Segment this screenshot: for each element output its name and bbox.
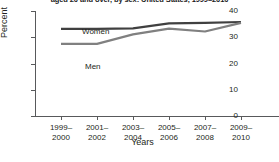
- chart-figure: aged 20 and over, by sex: United States,…: [0, 0, 279, 162]
- x-tick-label-line: 2009–: [219, 123, 263, 133]
- x-tick-label: 2009–2010: [219, 123, 263, 143]
- plot-area: 010203040 1999–20002001–20022003–2004200…: [35, 11, 279, 116]
- series-label-men: Men: [85, 63, 101, 71]
- x-tick-label-line: 2010: [219, 133, 263, 143]
- y-axis-title: Percent: [0, 7, 9, 38]
- series-lines: [35, 11, 279, 117]
- series-label-women: Women: [82, 28, 109, 36]
- chart-title: aged 20 and over, by sex: United States,…: [0, 0, 279, 4]
